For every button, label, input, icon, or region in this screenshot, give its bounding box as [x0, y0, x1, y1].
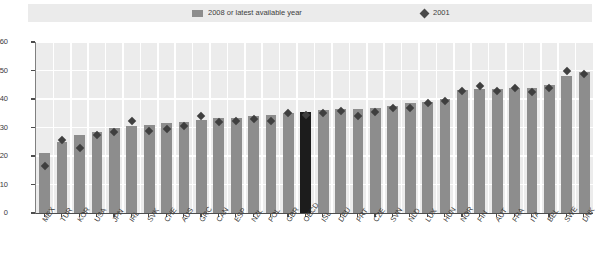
- y-tick-label: 20: [0, 152, 8, 160]
- gridline-vertical: [157, 42, 159, 213]
- bar-fra: [509, 88, 520, 213]
- bar-nor: [457, 90, 468, 213]
- bar-aus: [179, 122, 190, 213]
- gridline-vertical: [105, 42, 107, 213]
- bar-svn: [387, 106, 398, 213]
- gridline-vertical: [383, 42, 385, 213]
- bar-jpn: [109, 128, 120, 214]
- gridline-vertical: [174, 42, 176, 213]
- gridline-vertical: [192, 42, 194, 213]
- bar-aut: [492, 89, 503, 213]
- bar-tur: [57, 142, 68, 213]
- bar-lux: [422, 102, 433, 213]
- bar-bel: [544, 85, 555, 213]
- gridline-vertical: [540, 42, 542, 213]
- gridline-vertical: [488, 42, 490, 213]
- bar-isl: [318, 110, 329, 213]
- gridline-vertical: [87, 42, 89, 213]
- legend-diamond-swatch-icon: [420, 8, 430, 18]
- bar-fin: [474, 89, 485, 213]
- y-tick-label: 10: [0, 181, 8, 189]
- gridline-vertical: [418, 42, 420, 213]
- chart-root: 2008 or latest available year 2001 01020…: [0, 0, 606, 259]
- gridline-vertical: [401, 42, 403, 213]
- y-tick-label: 0: [4, 209, 8, 217]
- chart-legend: 2008 or latest available year 2001: [28, 4, 592, 22]
- bar-prt: [353, 109, 364, 213]
- bar-nzl: [248, 116, 259, 213]
- gridline-vertical: [209, 42, 211, 213]
- bar-usa: [92, 132, 103, 213]
- bar-oecd: [300, 112, 311, 213]
- gridline-vertical: [436, 42, 438, 213]
- gridline-vertical: [470, 42, 472, 213]
- y-tick-label: 30: [0, 124, 8, 132]
- gridline-vertical: [122, 42, 124, 213]
- bar-svk: [144, 125, 155, 213]
- bar-gbr: [283, 113, 294, 213]
- y-axis: 0102030405060: [0, 0, 35, 259]
- gridline-vertical: [244, 42, 246, 213]
- bar-grc: [196, 120, 207, 213]
- gridline-vertical: [523, 42, 525, 213]
- bar-can: [213, 118, 224, 213]
- bar-che: [161, 123, 172, 213]
- gridline-vertical: [331, 42, 333, 213]
- legend-bar-swatch-icon: [192, 10, 203, 17]
- gridline-vertical: [53, 42, 55, 213]
- bar-hun: [440, 99, 451, 213]
- gridline-vertical: [366, 42, 368, 213]
- gridline-vertical: [296, 42, 298, 213]
- legend-bars-label: 2008 or latest available year: [208, 9, 302, 17]
- y-tick-label: 40: [0, 95, 8, 103]
- marker-irl: [127, 116, 135, 124]
- gridline-vertical: [575, 42, 577, 213]
- gridline-vertical: [227, 42, 229, 213]
- bar-deu: [335, 109, 346, 213]
- bar-pol: [266, 115, 277, 213]
- bar-cze: [370, 108, 381, 213]
- gridline-vertical: [70, 42, 72, 213]
- y-tick-label: 60: [0, 38, 8, 46]
- bar-swe: [561, 76, 572, 213]
- bar-irl: [126, 126, 137, 213]
- bar-nld: [405, 103, 416, 213]
- gridline-vertical: [314, 42, 316, 213]
- plot-area: [35, 42, 593, 214]
- marker-grc: [197, 112, 205, 120]
- gridline-vertical: [453, 42, 455, 213]
- gridline-vertical: [349, 42, 351, 213]
- bar-dnk: [579, 72, 590, 213]
- legend-item-bars: 2008 or latest available year: [192, 4, 302, 22]
- gridline-vertical: [261, 42, 263, 213]
- legend-points-label: 2001: [433, 9, 450, 17]
- gridline-vertical: [557, 42, 559, 213]
- bar-ita: [527, 88, 538, 213]
- gridline-vertical: [279, 42, 281, 213]
- marker-swe: [563, 66, 571, 74]
- gridline-vertical: [505, 42, 507, 213]
- bar-esp: [231, 118, 242, 213]
- legend-item-points: 2001: [421, 4, 450, 22]
- y-tick-label: 50: [0, 67, 8, 75]
- gridline-vertical: [140, 42, 142, 213]
